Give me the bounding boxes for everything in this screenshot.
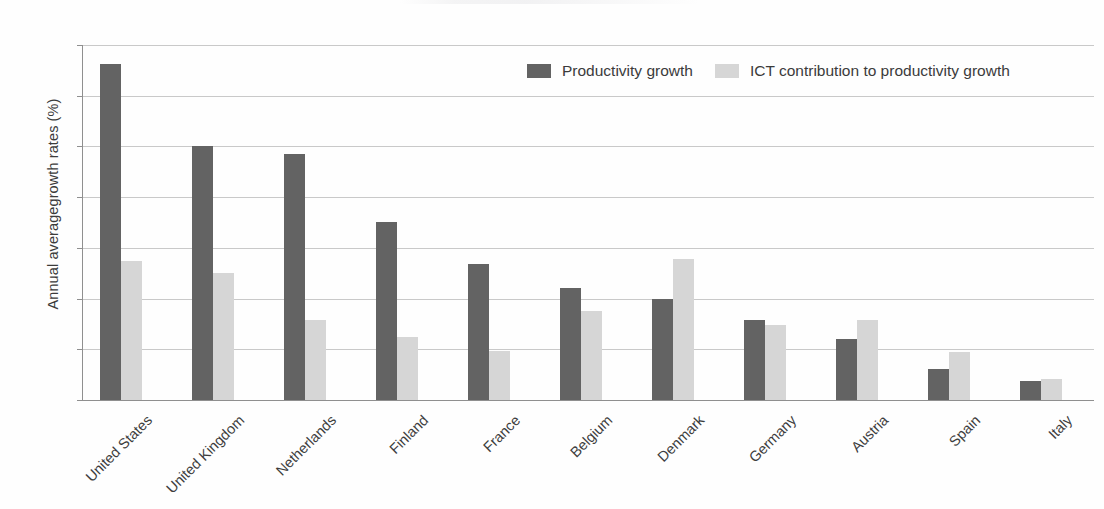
legend-label: Productivity growth: [562, 62, 693, 80]
bar: [468, 264, 489, 400]
bar-chart-figure: Annual averagegrowth rates (%) 0.00.51.0…: [0, 0, 1104, 509]
bar: [100, 64, 121, 400]
legend-item-ict-contribution[interactable]: ICT contribution to productivity growth: [715, 62, 1010, 80]
y-axis-tick-mark: [77, 96, 83, 97]
bar: [192, 146, 213, 400]
y-axis-tick-mark: [77, 248, 83, 249]
gridline: [83, 146, 1094, 147]
y-axis-tick-mark: [77, 400, 83, 401]
y-axis-tick-mark: [77, 349, 83, 350]
gridline: [83, 248, 1094, 249]
bar: [305, 320, 326, 400]
bar: [284, 154, 305, 400]
bar: [397, 337, 418, 400]
bar: [1020, 381, 1041, 400]
y-axis-tick-mark: [77, 197, 83, 198]
bar: [928, 369, 949, 400]
bar: [560, 288, 581, 400]
legend-item-productivity-growth[interactable]: Productivity growth: [527, 62, 693, 80]
gridline: [83, 400, 1094, 401]
gridline: [83, 197, 1094, 198]
bar: [489, 351, 510, 400]
legend-swatch-icon: [715, 64, 739, 78]
x-axis-category-label: United States: [3, 412, 156, 509]
bar: [121, 261, 142, 400]
bar: [652, 299, 673, 400]
bar: [765, 325, 786, 400]
bar: [376, 222, 397, 401]
plot-area: 0.00.51.01.52.02.53.03.5: [82, 45, 1094, 400]
legend-swatch-icon: [527, 64, 551, 78]
y-axis-title: Annual averagegrowth rates (%): [45, 54, 61, 354]
gridline: [83, 299, 1094, 300]
y-axis-tick-mark: [77, 299, 83, 300]
bar: [744, 320, 765, 400]
bar: [836, 339, 857, 400]
scan-artifact: [400, 0, 700, 4]
chart-legend: Productivity growth ICT contribution to …: [527, 62, 1010, 80]
bar: [949, 352, 970, 400]
gridline: [83, 96, 1094, 97]
bar: [857, 320, 878, 400]
bar: [673, 259, 694, 400]
bar: [581, 311, 602, 400]
legend-label: ICT contribution to productivity growth: [750, 62, 1010, 80]
bar: [213, 273, 234, 400]
bar: [1041, 379, 1062, 400]
y-axis-tick-mark: [77, 45, 83, 46]
gridline: [83, 45, 1094, 46]
y-axis-tick-mark: [77, 146, 83, 147]
